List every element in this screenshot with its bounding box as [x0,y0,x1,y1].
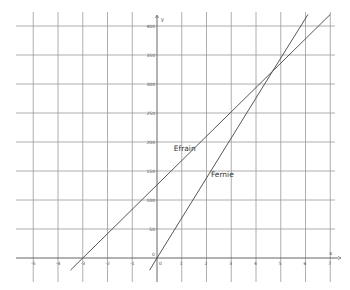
series-labels: EfrainFernie [174,144,234,179]
x-tick-label: -5 [31,261,36,266]
y-axis-label: y [161,16,164,23]
y-tick-label: 300 [146,82,155,87]
x-tick-label: -2 [106,261,111,266]
x-tick-label: 7 [328,261,331,266]
x-tick-label: -1 [130,261,135,266]
x-axis-arrow-icon [338,257,341,260]
x-tick-label: 4 [254,261,257,266]
x-tick-label: -3 [81,261,86,266]
series-label-efrain: Efrain [174,144,196,153]
x-tick-label: 6 [304,261,307,266]
x-tick-label: 1 [180,261,183,266]
y-tick-label: 150 [146,169,155,174]
x-axis-label: x [329,250,332,256]
series-label-fernie: Fernie [211,170,234,179]
y-tick-label: 50 [149,227,155,232]
y-tick-label: 350 [146,53,155,58]
y-tick-label: 250 [146,111,155,116]
line-chart: yx -5-4-3-2-1012345670501001502002503003… [0,0,350,290]
origin-label: 0 [152,252,155,257]
y-tick-label: 100 [146,198,155,203]
x-tick-label: -4 [56,261,61,266]
x-tick-label: 5 [279,261,282,266]
y-tick-label: 400 [146,24,155,29]
x-tick-label: 0 [159,261,162,266]
y-tick-label: 200 [146,140,155,145]
x-tick-label: 2 [205,261,208,266]
x-tick-label: 3 [229,261,232,266]
